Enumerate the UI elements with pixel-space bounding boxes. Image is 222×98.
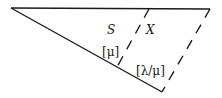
right-dashed-edge bbox=[162, 9, 210, 92]
segment-label-lambda-over-mu: [λ/μ] bbox=[136, 65, 165, 77]
hypotenuse-edge bbox=[11, 8, 162, 92]
segment-label-mu: [μ] bbox=[102, 46, 119, 58]
region-label-x: X bbox=[146, 24, 155, 36]
region-label-s: S bbox=[107, 24, 115, 36]
middle-dashed-divider bbox=[117, 9, 149, 67]
top-edge bbox=[11, 8, 210, 9]
